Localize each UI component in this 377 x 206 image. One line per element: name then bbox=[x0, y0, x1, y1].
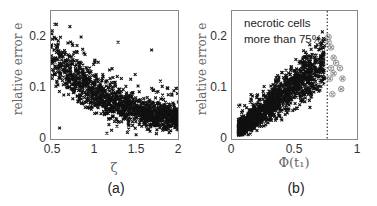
panel-a-xtick-3: 2 bbox=[163, 142, 193, 156]
panel-a-ylabel: relative error e bbox=[11, 9, 25, 129]
panel-a-xlabel: ζ bbox=[84, 160, 144, 175]
panel-a-xtick-2: 1.5 bbox=[121, 142, 151, 156]
panel-b-ytick-2: 0.2 bbox=[207, 29, 227, 43]
annotation-line-1: necrotic cells bbox=[244, 15, 322, 31]
panel-b-xtick-2: 1 bbox=[342, 142, 372, 156]
panel-b-xtick-0: 0 bbox=[216, 142, 246, 156]
annotation-line-2: more than 75% bbox=[244, 31, 322, 47]
panel-b-annotation: necrotic cells more than 75% bbox=[244, 15, 322, 47]
panel-a-ytick-1: 0.1 bbox=[26, 80, 46, 94]
panel-a-xtick-0: 0.5 bbox=[37, 142, 67, 156]
panel-a-axes bbox=[50, 10, 179, 140]
panel-b-caption: (b) bbox=[276, 180, 316, 196]
panel-a-xtick-1: 1 bbox=[79, 142, 109, 156]
panel-b-xlabel: Φ(t₁) bbox=[264, 155, 324, 170]
panel-a-caption: (a) bbox=[96, 180, 136, 196]
panel-b-ylabel: relative error e bbox=[195, 9, 209, 129]
panel-a-scatter bbox=[51, 11, 179, 140]
panel-b-axes: necrotic cells more than 75% bbox=[231, 10, 358, 140]
panel-b-xtick-1: 0.5 bbox=[279, 142, 309, 156]
panel-b-ytick-1: 0.1 bbox=[207, 80, 227, 94]
panel-a-ytick-2: 0.2 bbox=[26, 29, 46, 43]
